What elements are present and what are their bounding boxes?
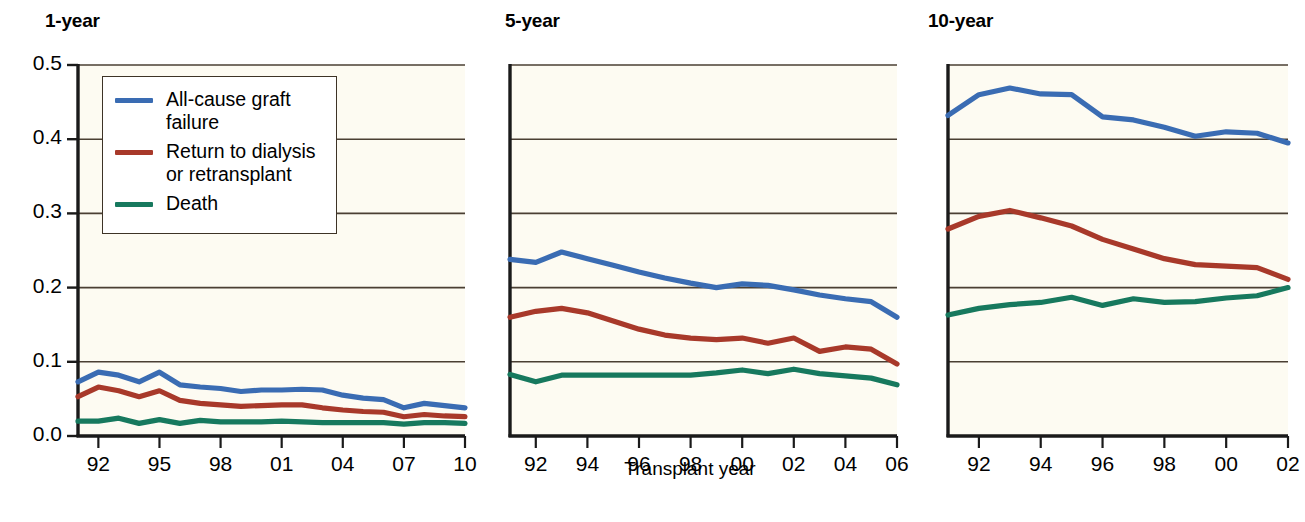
legend-swatch-all-cause-graft-failure <box>115 98 153 103</box>
plot-area-10-year <box>920 0 1305 522</box>
panel-5-year: 5-year Transplant year 9294969800020406 <box>460 0 920 522</box>
y-tick-label: 0.0 <box>0 422 62 446</box>
legend-swatch-return-to-dialysis <box>115 150 153 155</box>
legend-item-return-to-dialysis: Return to dialysis or retransplant <box>115 140 324 186</box>
y-tick-label: 0.5 <box>0 51 62 75</box>
legend-item-death: Death <box>115 192 324 215</box>
x-tick-label: 96 <box>1073 452 1133 476</box>
x-tick-label: 01 <box>252 452 312 476</box>
figure-root: 1-year Probability of outcome 0.00.10.20… <box>0 0 1305 522</box>
x-tick-label: 07 <box>374 452 434 476</box>
x-tick-label: 98 <box>1134 452 1194 476</box>
legend: All-cause graft failure Return to dialys… <box>102 76 337 234</box>
x-tick-label: 04 <box>313 452 373 476</box>
y-tick-label: 0.3 <box>0 199 62 223</box>
x-tick-label: 06 <box>867 452 927 476</box>
panel-10-year: 10-year 929496980002 <box>920 0 1305 522</box>
x-tick-label: 00 <box>1196 452 1256 476</box>
x-tick-label: 94 <box>1011 452 1071 476</box>
x-tick-label: 98 <box>191 452 251 476</box>
y-tick-label: 0.4 <box>0 125 62 149</box>
plot-background <box>510 65 897 436</box>
y-tick-label: 0.2 <box>0 274 62 298</box>
x-tick-label: 02 <box>1258 452 1305 476</box>
legend-label-death: Death <box>166 192 218 215</box>
plot-area-5-year <box>460 0 920 522</box>
x-tick-label: 92 <box>68 452 128 476</box>
x-tick-label: 95 <box>129 452 189 476</box>
y-tick-label: 0.1 <box>0 348 62 372</box>
legend-item-all-cause-graft-failure: All-cause graft failure <box>115 88 324 134</box>
x-tick-label: 92 <box>949 452 1009 476</box>
legend-swatch-death <box>115 202 153 207</box>
legend-label-return-to-dialysis: Return to dialysis or retransplant <box>166 140 316 186</box>
legend-label-all-cause-graft-failure: All-cause graft failure <box>166 88 291 134</box>
